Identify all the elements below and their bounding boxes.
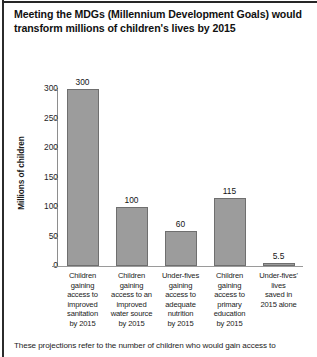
bar-value-label: 60 [151, 219, 211, 229]
bar-value-label: 5.5 [249, 251, 309, 261]
bar-value-label: 115 [200, 186, 260, 196]
category-label-line: 2015 alone [250, 300, 307, 310]
bar[interactable] [67, 89, 99, 266]
y-axis-label: Millions of children [16, 113, 26, 233]
chart-page: Meeting the MDGs (Millennium Development… [0, 0, 317, 357]
category-label-line: education [201, 309, 258, 319]
y-axis-tick-label: 0 [32, 260, 58, 270]
category-label-line: lives [250, 281, 307, 291]
y-axis-tick-label: 100 [32, 201, 58, 211]
y-axis-tick-label: 250 [32, 113, 58, 123]
bar-slot[interactable]: 60 [165, 89, 197, 266]
bar-slot[interactable]: 300 [67, 89, 99, 266]
category-label-line: by 2015 [201, 319, 258, 329]
bar[interactable] [116, 207, 148, 266]
bar-value-label: 100 [102, 195, 162, 205]
bar-slot[interactable]: 100 [116, 89, 148, 266]
bar-chart: Millions of children 050100150200250300 … [0, 0, 317, 357]
chart-footnote: These projections refer to the number of… [14, 341, 312, 351]
bar-slot[interactable]: 5.5 [263, 89, 295, 266]
bar[interactable] [214, 198, 246, 266]
y-axis-tick-label: 50 [32, 231, 58, 241]
bar-series: 300100601155.5 [58, 89, 303, 266]
category-label-line: Under-fives' [250, 271, 307, 281]
bar[interactable] [263, 263, 295, 266]
x-axis-category-label: Under-fives'livessaved in2015 alone [250, 271, 307, 309]
y-axis-tick-label: 200 [32, 142, 58, 152]
bar-value-label: 300 [53, 77, 113, 87]
category-label-line: saved in [250, 290, 307, 300]
y-axis-tick-mark [52, 266, 58, 267]
bar-slot[interactable]: 115 [214, 89, 246, 266]
x-axis-baseline [57, 266, 303, 267]
x-axis-category-labels: Childrengainingaccess toimprovedsanitati… [58, 271, 303, 333]
y-axis-tick-label: 150 [32, 172, 58, 182]
bar[interactable] [165, 231, 197, 266]
